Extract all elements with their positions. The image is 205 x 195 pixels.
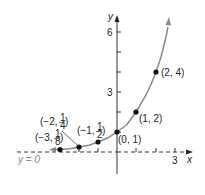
point-label-2: (2, 4) xyxy=(161,67,184,78)
point-m3 xyxy=(57,147,62,152)
x-axis-label: x xyxy=(186,154,193,165)
point-label-1: (1, 2) xyxy=(139,113,162,124)
point-1 xyxy=(133,109,138,114)
tick-label-y6: 6 xyxy=(107,27,113,38)
point-m1 xyxy=(95,139,100,144)
svg-text:): ) xyxy=(102,125,105,136)
point-label-m3: (−3, 1 8 ) xyxy=(35,128,63,147)
y-ticks xyxy=(117,32,121,132)
point-m2 xyxy=(76,144,81,149)
asymptote-label: y = 0 xyxy=(17,154,40,165)
y-axis-label: y xyxy=(107,11,114,22)
curve-left-arrow-icon xyxy=(49,147,56,152)
svg-text:(−1,: (−1, xyxy=(77,125,95,136)
point-label-m1: (−1, 1 2 ) xyxy=(77,121,105,140)
svg-text:): ) xyxy=(65,116,68,127)
point-label-0: (0, 1) xyxy=(118,134,141,145)
svg-text:(−3,: (−3, xyxy=(35,132,53,143)
exponential-graph: y x 6 3 3 y = 0 (2, 4) (1, 2) (0, 1) (−1… xyxy=(0,0,205,195)
data-points xyxy=(57,69,158,152)
point-2 xyxy=(153,69,158,74)
y-axis-arrow-icon xyxy=(115,15,120,22)
svg-text:): ) xyxy=(60,132,63,143)
tick-label-x3: 3 xyxy=(172,155,178,166)
label-pointer xyxy=(62,131,77,145)
svg-text:(−2,: (−2, xyxy=(40,116,58,127)
tick-label-y3: 3 xyxy=(107,87,113,98)
curve-arrow-icon xyxy=(166,17,172,26)
